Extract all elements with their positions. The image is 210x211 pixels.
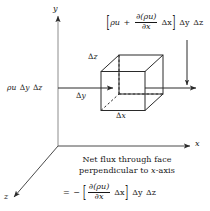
net-flux-expression: = − [ ∂(ρu) ∂x Δx ] Δy Δz <box>63 183 156 202</box>
cube-dx-axis-letter: x <box>121 111 125 120</box>
flux-out-fraction: ∂(ρu) ∂x <box>135 13 157 32</box>
figure-container: y x z Δz Δy Δx ρuΔyΔz [ ρu + ∂(ρu) ∂x Δx… <box>0 0 210 211</box>
net-flux-open-bracket: [ <box>82 183 86 201</box>
net-flux-fraction: ∂(ρu) ∂x <box>88 183 110 202</box>
net-flux-dz: Δz <box>146 188 156 197</box>
caption-line-1: Net flux through face <box>52 155 202 166</box>
net-flux-numerator: ∂(ρu) <box>88 183 110 191</box>
cube-edge-bottom-right <box>145 94 163 111</box>
y-axis-label: y <box>53 5 58 13</box>
net-flux-denominator: ∂x <box>94 193 105 201</box>
flux-out-plus-sign: + <box>123 18 130 27</box>
flux-out-close-bracket: ] <box>172 13 176 31</box>
cube-dz-label: Δz <box>88 53 97 61</box>
flux-out-numerator: ∂(ρu) <box>135 13 157 21</box>
control-volume-cube <box>101 55 163 111</box>
flux-out-open-bracket: [ <box>106 13 110 31</box>
cube-edge-top-right <box>145 55 163 72</box>
flux-arrows <box>58 40 196 88</box>
cube-dy-axis-letter: y <box>81 91 85 100</box>
net-flux-close-bracket: ] <box>125 183 129 201</box>
flux-in-label: ρuΔyΔz <box>7 82 42 92</box>
flux-in-u: u <box>11 83 16 92</box>
caption: Net flux through face perpendicular to x… <box>52 155 202 176</box>
cube-dz-axis-letter: z <box>93 52 97 61</box>
caption-line-2-prefix: perpendicular to <box>79 166 151 175</box>
flux-out-u: u <box>115 18 120 27</box>
cube-hidden-edge-bottom-left <box>101 94 119 111</box>
flux-out-dz: Δz <box>193 18 203 27</box>
cube-edge-top-left <box>101 55 119 72</box>
flux-out-expression: [ ρu + ∂(ρu) ∂x Δx ] Δy Δz <box>106 13 203 32</box>
x-axis-label: x <box>195 140 200 148</box>
net-flux-dy: Δy <box>132 188 142 197</box>
cube-dx-label: Δx <box>116 112 126 120</box>
net-flux-dx: Δx <box>114 188 124 197</box>
caption-line-2-suffix: -axis <box>156 166 175 175</box>
caption-line-2: perpendicular to x-axis <box>52 166 202 177</box>
flux-out-dx: Δx <box>161 18 171 27</box>
cube-dy-label: Δy <box>76 92 86 100</box>
flux-out-dy: Δy <box>179 18 189 27</box>
net-flux-minus: − <box>73 188 80 197</box>
flux-in-y: y <box>25 83 29 92</box>
flux-in-z: z <box>38 83 42 92</box>
flux-out-equation: [ ρu + ∂(ρu) ∂x Δx ] Δy Δz <box>106 13 203 32</box>
cube-front-face <box>101 72 145 111</box>
net-flux-equation: = − [ ∂(ρu) ∂x Δx ] Δy Δz <box>63 183 156 202</box>
flux-in-expression: ρuΔyΔz <box>7 83 42 92</box>
z-axis-label: z <box>4 193 8 201</box>
net-flux-equals: = <box>63 188 70 197</box>
flux-out-denominator: ∂x <box>141 23 152 31</box>
